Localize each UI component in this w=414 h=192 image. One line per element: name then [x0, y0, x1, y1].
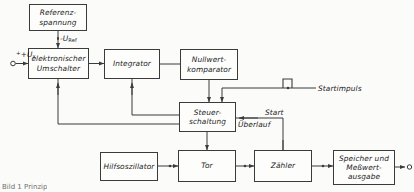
junction-dot-zaehler-ausgabe — [322, 165, 325, 168]
pulse-waveform-icon — [283, 79, 292, 88]
wire-steuerung-to-integrator — [132, 79, 179, 115]
input-terminal-icon — [11, 61, 16, 66]
block-integrator[interactable]: Integrator — [104, 49, 160, 79]
label-reference-voltage-subscript: Ref — [68, 37, 77, 43]
block-nullwertkomparator-label: Nullwert- komparator — [187, 55, 231, 73]
output-terminal-icon — [407, 165, 411, 169]
junction-dot-oszillator-tor — [169, 165, 172, 168]
block-hilfsoszillator[interactable]: Hilfsoszillator — [100, 152, 158, 181]
label-ueberlauf: Überlauf — [238, 120, 270, 129]
block-elektronischer-umschalter[interactable]: elektronischer Umschalter — [28, 48, 89, 79]
block-nullwertkomparator[interactable]: Nullwert- komparator — [180, 49, 238, 80]
junction-dot-tor-zaehler — [244, 165, 247, 168]
wire-steuerung-to-umschalter — [58, 79, 179, 124]
block-referenzspannung[interactable]: Referenz- spannung — [29, 4, 87, 31]
block-speicher-messwertausgabe[interactable]: Speicher und Meßwert- ausgabe — [333, 150, 395, 185]
block-steuerschaltung-label: Steuer- schaltung — [189, 108, 226, 126]
block-zaehler[interactable]: Zähler — [254, 150, 312, 182]
block-integrator-label: Integrator — [113, 59, 151, 68]
label-start: Start — [265, 108, 284, 117]
block-speicher-messwertausgabe-label: Speicher und Meßwert- ausgabe — [339, 154, 389, 181]
block-hilfsoszillator-label: Hilfsoszillator — [103, 162, 154, 171]
label-reference-voltage: -URef — [60, 34, 77, 43]
block-tor[interactable]: Tor — [178, 150, 236, 182]
label-input-voltage-subscript: x — [33, 53, 36, 59]
label-input-voltage-symbol: +U — [21, 50, 33, 59]
block-zaehler-label: Zähler — [271, 161, 296, 170]
block-steuerschaltung[interactable]: Steuer- schaltung — [179, 102, 236, 132]
junction-dot-startimpuls — [287, 87, 290, 90]
block-referenzspannung-label: Referenz- spannung — [39, 8, 76, 26]
wire-startimpuls-to-steuerung — [222, 88, 316, 102]
label-input-voltage: ++Ux — [16, 50, 36, 59]
block-elektronischer-umschalter-label: elektronischer Umschalter — [31, 54, 85, 72]
block-diagram-figure: Referenz- spannung elektronischer Umscha… — [0, 0, 414, 192]
label-startimpuls: Startimpuls — [318, 84, 362, 93]
figure-caption: Bild 1 Prinzip — [2, 183, 47, 192]
block-tor-label: Tor — [201, 161, 212, 170]
